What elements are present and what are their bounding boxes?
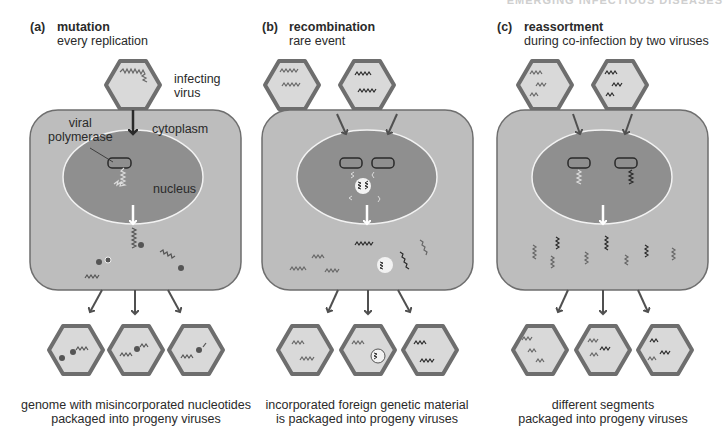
infecting-virus-icon — [265, 61, 319, 109]
panel-subtitle: during co-infection by two viruses — [497, 35, 709, 49]
viral-polymerase-label: viral polymerase — [48, 116, 113, 144]
panel-c-reassortment — [497, 61, 708, 374]
infecting-virus-icon — [340, 61, 394, 109]
progeny-virus-icon — [169, 326, 223, 374]
diagram-canvas — [0, 0, 727, 437]
panel-subtitle: every replication — [30, 35, 148, 49]
viral-polymerase-icon — [340, 158, 362, 168]
progeny-virus-icon — [638, 326, 692, 374]
infecting-virus-icon — [518, 61, 572, 109]
progeny-virus-icon — [513, 326, 567, 374]
panel-title: recombination — [289, 20, 375, 34]
panel-c-header: (c)reassortment during co-infection by t… — [497, 21, 709, 48]
viral-polymerase-icon — [108, 158, 131, 168]
panel-b-caption: incorporated foreign genetic materialis … — [247, 398, 487, 426]
panel-tag: (c) — [497, 21, 524, 35]
panel-b-header: (b)recombination rare event — [262, 21, 375, 48]
infecting-virus-icon — [593, 61, 647, 109]
infecting-virus-label: infecting virus — [174, 72, 221, 100]
panel-title: reassortment — [524, 20, 603, 34]
progeny-virus-icon — [403, 326, 457, 374]
viral-polymerase-icon — [372, 158, 394, 168]
progeny-virus-icon — [341, 326, 395, 374]
cytoplasm-label: cytoplasm — [152, 122, 208, 136]
progeny-virus-icon — [278, 326, 332, 374]
panel-tag: (a) — [30, 21, 57, 35]
panel-subtitle: rare event — [262, 35, 375, 49]
panel-a-mutation — [30, 61, 241, 374]
progeny-virus-icon — [49, 326, 103, 374]
panel-b-recombination — [262, 61, 473, 374]
panel-tag: (b) — [262, 21, 289, 35]
panel-a-header: (a)mutation every replication — [30, 21, 148, 48]
panel-title: mutation — [57, 20, 110, 34]
infecting-virus-icon — [106, 61, 160, 109]
panel-a-caption: genome with misincorporated nucleotidesp… — [16, 398, 256, 426]
viral-polymerase-icon — [615, 158, 637, 168]
nucleus-label: nucleus — [153, 182, 196, 196]
viral-polymerase-icon — [568, 158, 590, 168]
progeny-virus-icon — [109, 326, 163, 374]
progeny-virus-icon — [576, 326, 630, 374]
panel-c-caption: different segmentspackaged into progeny … — [483, 398, 723, 426]
